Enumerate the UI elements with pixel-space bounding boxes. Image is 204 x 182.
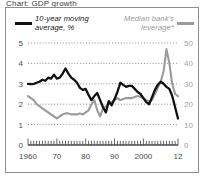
x-tick-label-12: 12 (174, 152, 183, 161)
chart-svg: 012345 01020304050 1960708090200012 (6, 37, 200, 173)
x-tick-label-90: 90 (110, 152, 119, 161)
legend-item-bank-leverage: Median bank's leverage* (98, 14, 194, 32)
y-tick-right-0: 0 (184, 141, 189, 150)
plot-area: 012345 01020304050 1960708090200012 (6, 37, 200, 173)
chart-title-partial: Chart: GDP growth (6, 0, 156, 7)
y-tick-left-1: 1 (18, 121, 23, 130)
y-tick-right-50: 50 (184, 39, 194, 48)
y-tick-right-40: 40 (184, 59, 194, 68)
x-tick-label-80: 80 (81, 152, 90, 161)
line-swatch-black-icon (15, 22, 32, 25)
y-tick-right-20: 20 (184, 100, 194, 109)
legend-label-right: Median bank's leverage* (102, 15, 174, 32)
y-tick-left-2: 2 (18, 100, 23, 109)
chart-legend: 10-year moving average, % Median bank's … (6, 8, 200, 38)
legend-item-moving-average: 10-year moving average, % (15, 14, 110, 32)
x-tick-label-70: 70 (52, 152, 61, 161)
y-tick-left-5: 5 (18, 39, 23, 48)
gridlines (28, 43, 178, 125)
y-axis-right-labels: 01020304050 (184, 39, 194, 150)
x-tick-label-1960: 1960 (19, 152, 37, 161)
x-axis-tickmarks (28, 139, 178, 146)
y-tick-left-0: 0 (18, 141, 23, 150)
y-tick-right-30: 30 (184, 80, 194, 89)
y-axis-left-labels: 012345 (18, 39, 23, 150)
legend-label-left: 10-year moving average, % (35, 15, 107, 32)
x-tick-label-2000: 2000 (134, 152, 152, 161)
y-tick-left-3: 3 (18, 80, 23, 89)
x-axis-labels: 1960708090200012 (19, 152, 183, 161)
line-swatch-grey-icon (177, 22, 194, 25)
y-tick-left-4: 4 (18, 59, 23, 68)
y-tick-right-10: 10 (184, 121, 194, 130)
chart-card: 10-year moving average, % Median bank's … (5, 7, 199, 173)
